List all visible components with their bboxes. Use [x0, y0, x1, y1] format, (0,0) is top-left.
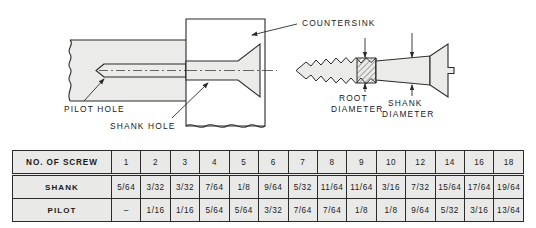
table-cell-pilot-size-16: 3/16 — [465, 199, 494, 222]
screw-size-table-container: NO. OF SCREW 1234567891012141618 SHANK 5… — [12, 150, 524, 220]
table-cell-pilot-size-2: 1/16 — [141, 199, 170, 222]
table-cell-pilot-size-5: 5/64 — [229, 199, 258, 222]
table-cell-screw-number-8: 8 — [317, 151, 346, 175]
screw-size-table: NO. OF SCREW 1234567891012141618 SHANK 5… — [12, 150, 524, 222]
table-cell-shank-size-10: 3/16 — [376, 175, 405, 199]
wood-screw — [296, 33, 454, 97]
table-cell-screw-number-12: 12 — [406, 151, 435, 175]
table-cell-shank-size-3: 3/32 — [170, 175, 199, 199]
table-cell-pilot-size-1: – — [112, 199, 141, 222]
table-cell-screw-number-2: 2 — [141, 151, 170, 175]
table-cell-pilot-size-9: 1/8 — [347, 199, 376, 222]
label-pilot-hole: PILOT HOLE — [64, 104, 125, 114]
table-cell-shank-size-2: 3/32 — [141, 175, 170, 199]
table-cell-pilot-size-4: 5/64 — [200, 199, 229, 222]
table-cell-shank-size-18: 19/64 — [494, 175, 524, 199]
table-cell-screw-number-4: 4 — [200, 151, 229, 175]
table-cell-pilot-size-10: 1/8 — [376, 199, 405, 222]
label-shank-diameter-line1: SHANK — [388, 98, 423, 108]
screw-size-table-body: NO. OF SCREW 1234567891012141618 SHANK 5… — [13, 151, 524, 222]
label-shank-hole: SHANK HOLE — [110, 121, 176, 131]
table-cell-pilot-size-8: 7/64 — [317, 199, 346, 222]
table-cell-shank-size-9: 11/64 — [347, 175, 376, 199]
table-cell-shank-size-6: 9/64 — [259, 175, 288, 199]
table-cell-screw-number-1: 1 — [112, 151, 141, 175]
table-cell-screw-number-9: 9 — [347, 151, 376, 175]
table-cell-pilot-size-12: 9/64 — [406, 199, 435, 222]
table-cell-shank-size-1: 5/64 — [112, 175, 141, 199]
table-header-no-of-screw: NO. OF SCREW — [13, 151, 112, 175]
table-row-label-shank: SHANK — [13, 175, 112, 199]
table-cell-shank-size-12: 7/32 — [406, 175, 435, 199]
table-cell-screw-number-16: 16 — [465, 151, 494, 175]
table-cell-pilot-size-7: 7/64 — [288, 199, 317, 222]
table-cell-screw-number-14: 14 — [435, 151, 464, 175]
table-row-shank: SHANK 5/643/323/327/641/89/645/3211/6411… — [13, 175, 524, 199]
table-cell-screw-number-5: 5 — [229, 151, 258, 175]
screw-shank — [376, 56, 430, 85]
label-root-diameter-line1: ROOT — [339, 93, 368, 103]
table-row-label-pilot: PILOT — [13, 199, 112, 222]
table-cell-screw-number-3: 3 — [170, 151, 199, 175]
table-cell-shank-size-5: 1/8 — [229, 175, 258, 199]
diagram-svg — [0, 0, 536, 146]
table-cell-screw-number-7: 7 — [288, 151, 317, 175]
screw-thread-section-hatch — [357, 58, 376, 83]
table-row-pilot: PILOT –1/161/165/645/643/327/647/641/81/… — [13, 199, 524, 222]
table-cell-pilot-size-3: 1/16 — [170, 199, 199, 222]
technical-diagram: COUNTERSINK PILOT HOLE SHANK HOLE ROOT D… — [0, 0, 536, 146]
table-cell-screw-number-10: 10 — [376, 151, 405, 175]
pilot-hole-bore — [96, 64, 186, 77]
table-cell-shank-size-16: 17/64 — [465, 175, 494, 199]
table-cell-shank-size-14: 15/64 — [435, 175, 464, 199]
table-cell-shank-size-7: 5/32 — [288, 175, 317, 199]
label-shank-diameter-line2: DIAMETER — [382, 109, 434, 119]
table-cell-pilot-size-14: 5/32 — [435, 199, 464, 222]
table-cell-shank-size-4: 7/64 — [200, 175, 229, 199]
screw-head — [430, 44, 454, 97]
table-cell-pilot-size-6: 3/32 — [259, 199, 288, 222]
label-root-diameter-line2: DIAMETER — [331, 104, 383, 114]
table-cell-shank-size-8: 11/64 — [317, 175, 346, 199]
label-countersink: COUNTERSINK — [302, 18, 376, 28]
table-row-screw-number: NO. OF SCREW 1234567891012141618 — [13, 151, 524, 175]
table-cell-pilot-size-18: 13/64 — [494, 199, 524, 222]
table-cell-screw-number-18: 18 — [494, 151, 524, 175]
table-cell-screw-number-6: 6 — [259, 151, 288, 175]
